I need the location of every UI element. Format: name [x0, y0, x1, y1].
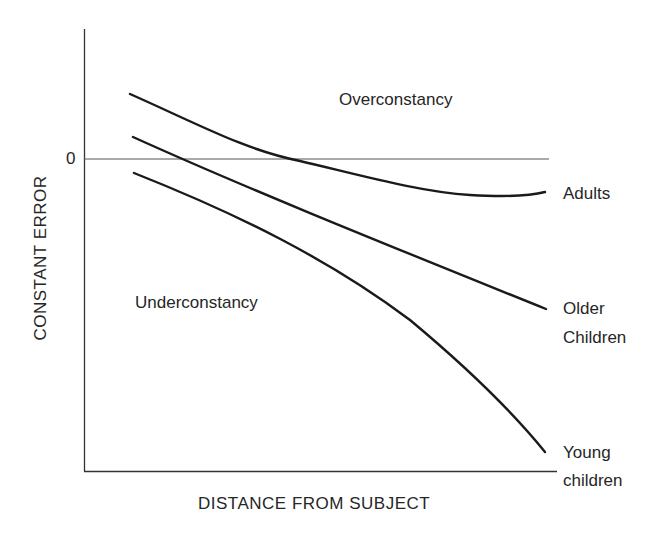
- series-label-young-children-line2: children: [563, 471, 623, 491]
- series-label-older-children-line2: Children: [563, 328, 626, 348]
- y-tick-zero: 0: [66, 149, 75, 169]
- annotation-underconstancy: Underconstancy: [135, 293, 258, 313]
- series-label-adults: Adults: [563, 184, 610, 204]
- series-label-young-children-line1: Young: [563, 443, 611, 463]
- annotation-overconstancy: Overconstancy: [339, 90, 452, 110]
- series-line-adults: [130, 94, 545, 196]
- series-line-older-children: [133, 137, 546, 309]
- series-label-older-children-line1: Older: [563, 299, 605, 319]
- y-axis-label: CONSTANT ERROR: [31, 175, 51, 340]
- x-axis-label: DISTANCE FROM SUBJECT: [198, 494, 430, 514]
